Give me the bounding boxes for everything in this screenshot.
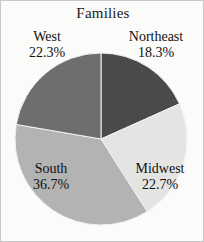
- slice-label-midwest-name: Midwest: [117, 161, 203, 177]
- slice-label-northeast-percent: 18.3%: [111, 45, 201, 61]
- pie-slice-west: [16, 53, 101, 139]
- slice-label-midwest: Midwest 22.7%: [117, 161, 203, 193]
- pie-slice-group: [15, 53, 187, 225]
- slice-label-northeast: Northeast 18.3%: [111, 29, 201, 61]
- slice-label-south-name: South: [9, 161, 93, 177]
- pie-chart-figure: Families Northeast 18.3% West 22.3% Midw…: [0, 0, 204, 242]
- slice-label-south-percent: 36.7%: [9, 177, 93, 193]
- slice-label-northeast-name: Northeast: [111, 29, 201, 45]
- slice-label-west: West 22.3%: [5, 29, 89, 61]
- slice-label-midwest-percent: 22.7%: [117, 177, 203, 193]
- slice-label-west-name: West: [5, 29, 89, 45]
- slice-label-west-percent: 22.3%: [5, 45, 89, 61]
- slice-label-south: South 36.7%: [9, 161, 93, 193]
